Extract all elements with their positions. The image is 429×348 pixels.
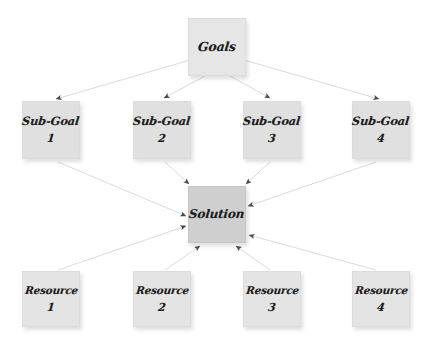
edge-subgoal-2-solution — [165, 162, 189, 184]
node-subgoal-2-number: 2 — [158, 133, 167, 145]
edge-resource-1-solution — [58, 226, 186, 270]
node-subgoal-4-label: Sub-Goal — [352, 115, 410, 127]
diagram-canvas: Goals Sub-Goal 1 Sub-Goal 2 Sub-Goal 3 S… — [0, 0, 429, 348]
node-resource-1-number: 1 — [47, 302, 56, 314]
node-resource-2-label: Resource — [135, 285, 189, 296]
node-goals-label: Goals — [197, 40, 236, 53]
node-resource-3[interactable]: Resource 3 — [243, 271, 301, 327]
node-subgoal-3-number: 3 — [268, 133, 277, 145]
node-subgoal-4-number: 4 — [377, 133, 386, 145]
edge-goals-subgoal-3 — [230, 76, 270, 98]
node-subgoal-2[interactable]: Sub-Goal 2 — [133, 101, 191, 159]
node-resource-1[interactable]: Resource 1 — [22, 271, 80, 327]
node-resource-2[interactable]: Resource 2 — [133, 271, 191, 327]
node-subgoal-1-label: Sub-Goal — [22, 115, 80, 127]
node-solution[interactable]: Solution — [188, 186, 246, 243]
node-resource-4-number: 4 — [377, 302, 386, 314]
edge-goals-subgoal-4 — [244, 60, 379, 99]
node-subgoal-2-label: Sub-Goal — [133, 115, 191, 127]
edge-resource-2-solution — [165, 246, 200, 270]
node-resource-3-label: Resource — [245, 285, 299, 296]
node-solution-label: Solution — [189, 208, 246, 221]
edge-resource-3-solution — [236, 246, 270, 270]
node-resource-1-label: Resource — [24, 285, 78, 296]
edge-goals-subgoal-2 — [164, 76, 205, 98]
node-subgoal-1-number: 1 — [47, 133, 56, 145]
edge-subgoal-3-solution — [246, 162, 270, 184]
node-resource-4-label: Resource — [354, 285, 408, 296]
node-subgoal-3-label: Sub-Goal — [243, 115, 301, 127]
node-subgoal-4[interactable]: Sub-Goal 4 — [352, 101, 410, 159]
node-resource-2-number: 2 — [158, 302, 167, 314]
node-subgoal-3[interactable]: Sub-Goal 3 — [243, 101, 301, 159]
edge-subgoal-4-solution — [248, 162, 376, 206]
edge-subgoal-1-solution — [58, 162, 186, 216]
edge-resource-4-solution — [249, 235, 376, 270]
edge-goals-subgoal-1 — [56, 60, 190, 99]
node-resource-4[interactable]: Resource 4 — [352, 271, 410, 327]
node-resource-3-number: 3 — [268, 302, 277, 314]
node-goals[interactable]: Goals — [188, 18, 246, 76]
node-subgoal-1[interactable]: Sub-Goal 1 — [22, 101, 80, 159]
